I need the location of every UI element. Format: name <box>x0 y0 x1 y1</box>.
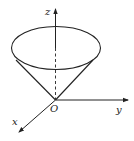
origin-label: O <box>50 103 58 114</box>
x-axis-label: x <box>12 116 18 127</box>
cone-left-edge <box>16 60 56 100</box>
z-axis-label: z <box>44 6 51 17</box>
y-axis-label: y <box>115 104 122 115</box>
cone-right-edge <box>56 60 94 100</box>
cone-diagram: z y x O <box>0 0 134 141</box>
